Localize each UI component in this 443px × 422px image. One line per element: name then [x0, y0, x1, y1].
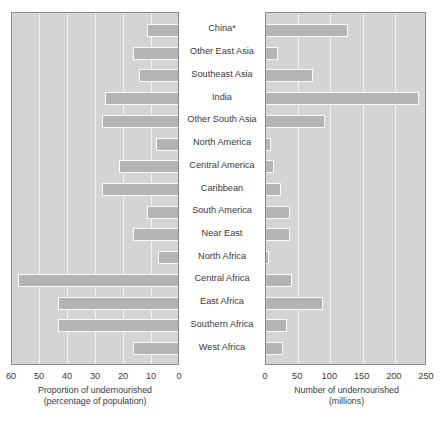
category-label: Near East	[179, 228, 265, 239]
category-label: East Africa	[179, 296, 265, 307]
category-label: Caribbean	[179, 183, 265, 194]
left-tick-10: 10	[146, 369, 156, 383]
bar-left-southern-africa	[58, 319, 178, 332]
right-tick-50: 50	[292, 369, 302, 383]
category-label: South America	[179, 205, 265, 216]
category-label: Other East Asia	[179, 46, 265, 57]
category-label: North America	[179, 137, 265, 148]
left-axis-title-line2: (percentage of population)	[0, 396, 190, 407]
bar-right-central-africa	[266, 274, 292, 287]
bar-left-central-africa	[18, 274, 178, 287]
bar-left-north-africa	[158, 251, 178, 264]
category-label: Other South Asia	[179, 114, 265, 125]
category-label: China*	[179, 23, 265, 34]
right-tick-200: 200	[386, 369, 401, 383]
bar-right-near-east	[266, 228, 290, 241]
bar-left-central-america	[119, 160, 178, 173]
bar-left-east-africa	[58, 297, 178, 310]
left-tick-40: 40	[62, 369, 72, 383]
category-label: Southern Africa	[179, 319, 265, 330]
left-chart-panel	[11, 12, 179, 365]
right-x-axis-ticks: 050100150200250	[250, 369, 443, 383]
bar-right-south-america	[266, 206, 290, 219]
bar-right-central-america	[266, 160, 274, 173]
left-x-axis-ticks: 6050403020100	[0, 369, 200, 383]
bar-left-other-east-asia	[133, 47, 178, 60]
left-axis-title-line1: Proportion of undernourished	[0, 385, 190, 396]
left-tick-50: 50	[34, 369, 44, 383]
category-label: Central America	[179, 160, 265, 171]
bar-left-west-africa	[133, 342, 178, 355]
right-tick-250: 250	[418, 369, 433, 383]
bar-right-west-africa	[266, 342, 283, 355]
left-tick-0: 0	[176, 369, 181, 383]
bar-left-near-east	[133, 228, 178, 241]
right-panel-bars	[266, 13, 425, 364]
left-tick-30: 30	[90, 369, 100, 383]
right-axis-title-line2: (millions)	[250, 396, 443, 407]
category-label: Southeast Asia	[179, 69, 265, 80]
bar-right-other-south-asia	[266, 115, 325, 128]
bar-left-india	[105, 92, 178, 105]
right-axis-title-line1: Number of undernourished	[250, 385, 443, 396]
bar-right-caribbean	[266, 183, 281, 196]
right-tick-0: 0	[262, 369, 267, 383]
bar-left-china	[147, 24, 178, 37]
left-panel-bars	[12, 13, 178, 364]
category-label: West Africa	[179, 342, 265, 353]
bar-right-southeast-asia	[266, 69, 313, 82]
right-chart-panel	[265, 12, 426, 365]
bar-right-china	[266, 24, 348, 37]
right-tick-150: 150	[354, 369, 369, 383]
bar-right-north-africa	[266, 251, 269, 264]
bar-right-north-america	[266, 138, 271, 151]
right-tick-100: 100	[322, 369, 337, 383]
bar-right-east-africa	[266, 297, 323, 310]
bar-left-southeast-asia	[139, 69, 178, 82]
bar-left-north-america	[156, 138, 178, 151]
category-label: North Africa	[179, 251, 265, 262]
left-axis-title: Proportion of undernourished (percentage…	[0, 385, 190, 407]
bar-right-southern-africa	[266, 319, 287, 332]
bar-left-other-south-asia	[102, 115, 178, 128]
undernourishment-chart-figure: China*Other East AsiaSoutheast AsiaIndia…	[0, 0, 443, 422]
category-label: India	[179, 92, 265, 103]
right-axis-title: Number of undernourished (millions)	[250, 385, 443, 407]
bar-left-caribbean	[102, 183, 178, 196]
bar-right-india	[266, 92, 419, 105]
bar-right-other-east-asia	[266, 47, 278, 60]
left-tick-20: 20	[118, 369, 128, 383]
category-label: Central Africa	[179, 273, 265, 284]
category-label-column: China*Other East AsiaSoutheast AsiaIndia…	[179, 12, 265, 365]
left-tick-60: 60	[6, 369, 16, 383]
bar-left-south-america	[147, 206, 178, 219]
